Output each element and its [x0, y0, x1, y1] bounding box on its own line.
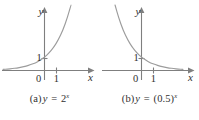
y-axis-b [139, 7, 145, 80]
caption-b-lhs: y [135, 93, 140, 104]
y-axis-label-b: y [135, 5, 141, 17]
x-axis-label-a: x [87, 71, 93, 83]
caption-a: (a)y = 2x [0, 92, 99, 106]
panel-a-exponential-growth: y x 0 1 1 (a)y = 2x [0, 0, 99, 120]
caption-a-equals: = [51, 93, 57, 104]
plot-area-b: y x 0 1 1 [100, 0, 199, 92]
panel-b-exponential-decay: y x 0 1 1 (b)y = (0.5)x [100, 0, 199, 120]
plot-area-a: y x 0 1 1 [0, 0, 99, 92]
y-axis-label-a: y [38, 5, 44, 17]
caption-a-label: (a) [30, 93, 42, 104]
x-axis-b [102, 68, 195, 74]
x-tick-label-1-b: 1 [151, 73, 156, 84]
caption-a-lhs: y [43, 93, 48, 104]
caption-b: (b)y = (0.5)x [100, 92, 199, 106]
curve-y-equals-0point5-pow-x [115, 5, 183, 69]
y-tick-label-1-b: 1 [134, 52, 139, 63]
x-axis-label-b: x [187, 71, 193, 83]
y-tick-label-1-a: 1 [37, 52, 42, 63]
exponential-functions-figure: y x 0 1 1 (a)y = 2x [0, 0, 199, 120]
caption-b-exponent: x [174, 92, 177, 99]
origin-label-b: 0 [133, 73, 138, 84]
caption-a-exponent: x [66, 92, 69, 99]
x-tick-label-1-a: 1 [54, 73, 59, 84]
caption-b-base: (0.5) [154, 93, 175, 104]
y-axis-a [42, 7, 48, 80]
origin-label-a: 0 [36, 73, 41, 84]
caption-b-label: (b) [122, 93, 135, 104]
caption-b-equals: = [144, 93, 150, 104]
